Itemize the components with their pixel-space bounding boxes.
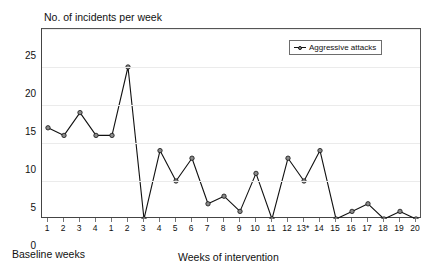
x-axis-tick-6: 6 bbox=[189, 224, 194, 233]
gridline-20 bbox=[42, 67, 420, 68]
data-point-17 bbox=[366, 202, 370, 206]
x-axis-tick-9: 9 bbox=[237, 224, 242, 233]
x-axis-tickmark-4 bbox=[111, 218, 112, 222]
y-axis-tick-15: 15 bbox=[6, 127, 36, 137]
chart-figure: No. of incidents per week 0510152025 123… bbox=[0, 0, 446, 275]
data-point-3 bbox=[78, 110, 82, 114]
data-point-4 bbox=[94, 133, 98, 137]
x-axis-tick-1: 1 bbox=[109, 224, 114, 233]
x-axis-tickmark-17 bbox=[319, 218, 320, 222]
series-aggressive-attacks bbox=[42, 29, 422, 219]
x-axis-tick-14: 14 bbox=[314, 224, 323, 233]
x-axis-tick-2: 2 bbox=[125, 224, 130, 233]
plot-area bbox=[41, 28, 421, 218]
x-axis-tickmark-8 bbox=[175, 218, 176, 222]
data-point-7 bbox=[206, 202, 210, 206]
data-point-6 bbox=[190, 156, 194, 160]
baseline-phase-caption: Baseline weeks bbox=[12, 248, 85, 260]
x-axis-tickmark-16 bbox=[303, 218, 304, 222]
x-axis-tickmark-10 bbox=[207, 218, 208, 222]
data-point-16 bbox=[350, 209, 354, 213]
x-axis-tickmark-22 bbox=[399, 218, 400, 222]
data-point-1 bbox=[110, 133, 114, 137]
x-axis-tick-13*: 13* bbox=[297, 224, 310, 233]
gridline-15 bbox=[42, 105, 420, 106]
x-axis-tick-20: 20 bbox=[410, 224, 419, 233]
x-axis-tickmark-12 bbox=[239, 218, 240, 222]
data-point-4 bbox=[158, 148, 162, 152]
data-point-14 bbox=[318, 148, 322, 152]
chart-title: No. of incidents per week bbox=[44, 11, 162, 23]
y-axis-tick-20: 20 bbox=[6, 89, 36, 99]
x-axis-tick-4: 4 bbox=[93, 224, 98, 233]
x-axis-tick-1: 1 bbox=[45, 224, 50, 233]
x-axis: 123412345678910111213*14151617181920 bbox=[41, 218, 421, 240]
x-axis-tick-11: 11 bbox=[267, 224, 276, 233]
gridline-5 bbox=[42, 181, 420, 182]
legend-label-aggressive-attacks: Aggressive attacks bbox=[309, 43, 376, 52]
x-axis-tickmark-2 bbox=[79, 218, 80, 222]
x-axis-tickmark-1 bbox=[63, 218, 64, 222]
data-point-19 bbox=[398, 209, 402, 213]
x-axis-tickmark-20 bbox=[367, 218, 368, 222]
x-axis-tickmark-11 bbox=[223, 218, 224, 222]
y-axis: 0510152025 bbox=[0, 28, 36, 218]
data-point-9 bbox=[238, 209, 242, 213]
data-point-8 bbox=[222, 194, 226, 198]
x-axis-tickmark-3 bbox=[95, 218, 96, 222]
x-axis-tickmark-14 bbox=[271, 218, 272, 222]
x-axis-tickmark-7 bbox=[159, 218, 160, 222]
gridline-25 bbox=[42, 29, 420, 30]
data-point-2 bbox=[62, 133, 66, 137]
x-axis-tickmark-18 bbox=[335, 218, 336, 222]
x-axis-tickmark-6 bbox=[143, 218, 144, 222]
x-axis-tick-5: 5 bbox=[173, 224, 178, 233]
y-axis-tick-25: 25 bbox=[6, 51, 36, 61]
data-point-10 bbox=[254, 171, 258, 175]
x-axis-tickmark-13 bbox=[255, 218, 256, 222]
chart-legend: Aggressive attacks bbox=[289, 40, 382, 55]
legend-marker-icon bbox=[294, 44, 306, 51]
x-axis-tick-17: 17 bbox=[362, 224, 371, 233]
x-axis-tickmark-23 bbox=[415, 218, 416, 222]
x-axis-tick-18: 18 bbox=[378, 224, 387, 233]
x-axis-tickmark-0 bbox=[47, 218, 48, 222]
x-axis-tick-12: 12 bbox=[282, 224, 291, 233]
x-axis-tick-8: 8 bbox=[221, 224, 226, 233]
x-axis-tick-3: 3 bbox=[141, 224, 146, 233]
x-axis-tickmark-9 bbox=[191, 218, 192, 222]
x-axis-tick-4: 4 bbox=[157, 224, 162, 233]
x-axis-tick-19: 19 bbox=[394, 224, 403, 233]
x-axis-tick-16: 16 bbox=[346, 224, 355, 233]
x-axis-tick-10: 10 bbox=[250, 224, 259, 233]
y-axis-tick-5: 5 bbox=[6, 203, 36, 213]
x-axis-tick-2: 2 bbox=[61, 224, 66, 233]
x-axis-tickmark-15 bbox=[287, 218, 288, 222]
x-axis-tickmark-5 bbox=[127, 218, 128, 222]
y-axis-tick-10: 10 bbox=[6, 165, 36, 175]
x-axis-tickmark-21 bbox=[383, 218, 384, 222]
x-axis-tick-3: 3 bbox=[77, 224, 82, 233]
x-axis-tickmark-19 bbox=[351, 218, 352, 222]
x-axis-tick-7: 7 bbox=[205, 224, 210, 233]
intervention-phase-caption: Weeks of intervention bbox=[178, 251, 279, 263]
data-point-12 bbox=[286, 156, 290, 160]
gridline-10 bbox=[42, 143, 420, 144]
data-point-1 bbox=[46, 126, 50, 130]
x-axis-tick-15: 15 bbox=[330, 224, 339, 233]
